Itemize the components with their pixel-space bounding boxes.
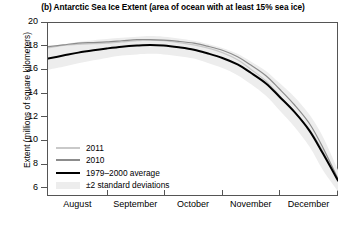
legend-label: 2010 bbox=[86, 154, 104, 166]
y-tick-label: 12 bbox=[14, 112, 38, 121]
y-tick: 14 bbox=[0, 88, 48, 98]
legend-label: ±2 standard deviations bbox=[86, 179, 169, 191]
legend-item: 2011 bbox=[56, 142, 226, 154]
y-tick: 16 bbox=[0, 64, 48, 74]
y-tick-label: 16 bbox=[14, 64, 38, 73]
legend-swatch bbox=[56, 159, 80, 161]
y-tick: 10 bbox=[0, 135, 48, 145]
x-tick-label: December bbox=[269, 199, 346, 209]
legend-swatch bbox=[56, 172, 80, 174]
legend-swatch bbox=[56, 182, 80, 189]
y-tick-label: 18 bbox=[14, 41, 38, 50]
y-tick: 20 bbox=[0, 17, 48, 27]
y-tick: 6 bbox=[0, 183, 48, 193]
legend-label: 2011 bbox=[86, 142, 104, 154]
y-tick-label: 6 bbox=[14, 183, 38, 192]
legend-label: 1979–2000 average bbox=[86, 167, 160, 179]
legend-item: 2010 bbox=[56, 154, 226, 166]
legend-swatch bbox=[56, 147, 80, 149]
y-tick-label: 10 bbox=[14, 135, 38, 144]
chart-figure: (b) Antarctic Sea Ice Extent (area of oc… bbox=[0, 0, 346, 231]
chart-legend: 201120101979–2000 average±2 standard dev… bbox=[56, 142, 226, 192]
y-tick-label: 14 bbox=[14, 88, 38, 97]
y-tick: 12 bbox=[0, 112, 48, 122]
y-tick-label: 8 bbox=[14, 159, 38, 168]
y-axis-ticks: 20181614121086 bbox=[0, 0, 48, 231]
y-tick-label: 20 bbox=[14, 17, 38, 26]
legend-item: 1979–2000 average bbox=[56, 167, 226, 179]
x-tick-mark bbox=[279, 190, 280, 196]
chart-title: (b) Antarctic Sea Ice Extent (area of oc… bbox=[0, 2, 346, 13]
y-tick: 8 bbox=[0, 159, 48, 169]
legend-item: ±2 standard deviations bbox=[56, 179, 226, 191]
y-tick: 18 bbox=[0, 41, 48, 51]
